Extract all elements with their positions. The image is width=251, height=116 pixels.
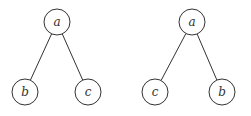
- node-label: c: [85, 85, 92, 99]
- edge-a-c: [62, 34, 82, 80]
- node-a: a: [44, 9, 70, 35]
- node-a: a: [179, 9, 205, 35]
- edge-a-b: [197, 34, 217, 80]
- node-label: a: [53, 15, 60, 29]
- node-c: c: [142, 79, 168, 105]
- node-label: a: [188, 15, 195, 29]
- edge-a-b: [30, 34, 51, 80]
- node-label: b: [218, 85, 226, 99]
- left-tree: abc: [12, 9, 101, 105]
- node-b: b: [209, 79, 235, 105]
- node-c: c: [75, 79, 101, 105]
- right-tree: acb: [142, 9, 235, 105]
- tree-diagram: abcacb: [0, 0, 251, 116]
- edge-a-c: [161, 33, 186, 80]
- node-label: c: [152, 85, 159, 99]
- node-b: b: [12, 79, 38, 105]
- diagram-canvas: abcacb: [0, 0, 251, 116]
- node-label: b: [21, 85, 29, 99]
